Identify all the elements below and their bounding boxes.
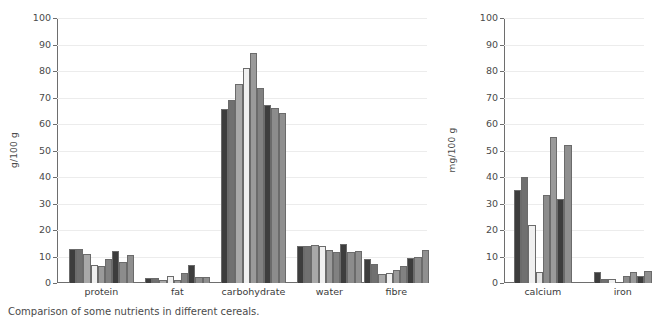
y-axis-tick	[500, 45, 504, 46]
y-axis-tick	[53, 151, 57, 152]
bar	[152, 278, 159, 283]
bar	[340, 244, 347, 283]
bar-group-fat	[145, 18, 210, 283]
x-axis-group-label: fibre	[346, 286, 446, 297]
bar	[127, 255, 134, 283]
bar	[521, 177, 528, 283]
bar	[228, 100, 235, 283]
y-axis-tick	[53, 98, 57, 99]
bar	[304, 246, 311, 283]
y-axis-tick-label: 60	[17, 119, 51, 129]
y-axis-tick	[53, 257, 57, 258]
y-axis-tick	[500, 71, 504, 72]
bar	[98, 266, 105, 283]
y-axis-tick-label: 50	[464, 146, 498, 156]
y-axis-tick	[53, 283, 57, 284]
y-axis-tick	[53, 177, 57, 178]
bar	[112, 251, 119, 283]
y-axis-tick-label: 80	[464, 66, 498, 76]
bar-group-fibre	[364, 18, 429, 283]
bar	[188, 265, 195, 283]
y-axis-tick-label: 100	[17, 13, 51, 23]
bar	[145, 278, 152, 283]
bar	[623, 276, 630, 283]
bar	[644, 271, 651, 283]
y-axis-tick-label: 70	[464, 93, 498, 103]
bar	[76, 249, 83, 283]
y-axis-tick-label: 50	[17, 146, 51, 156]
y-axis-tick-label: 0	[17, 278, 51, 288]
bar	[378, 274, 385, 283]
y-axis-tick-label: 100	[464, 13, 498, 23]
plot-area-left: 0102030405060708090100	[57, 18, 427, 283]
bar-group-calcium	[514, 18, 572, 283]
y-axis-tick-label: 30	[17, 199, 51, 209]
y-axis-tick-label: 40	[464, 172, 498, 182]
bar	[371, 264, 378, 283]
bar-group-carbohydrate	[221, 18, 286, 283]
chart-panel-milligrams: mg/100 g 0102030405060708090100 calciumi…	[440, 0, 659, 300]
bar	[347, 252, 354, 283]
bar	[69, 249, 76, 283]
y-axis-tick-label: 30	[464, 199, 498, 209]
bar	[264, 105, 271, 283]
bar	[414, 257, 421, 284]
y-axis-tick	[500, 18, 504, 19]
bar	[326, 250, 333, 283]
bar	[257, 88, 264, 283]
y-axis-tick-label: 10	[17, 252, 51, 262]
y-axis-tick	[500, 177, 504, 178]
y-axis-tick-label: 20	[464, 225, 498, 235]
bar	[167, 276, 174, 283]
y-axis-tick	[53, 71, 57, 72]
bar	[630, 272, 637, 283]
bar	[159, 280, 166, 283]
bar	[386, 273, 393, 283]
y-axis-tick	[500, 151, 504, 152]
bar	[528, 225, 535, 283]
bar	[550, 137, 557, 283]
bar	[221, 109, 228, 283]
bar	[400, 266, 407, 283]
bar	[297, 246, 304, 283]
y-axis-tick-label: 20	[17, 225, 51, 235]
bar	[250, 53, 257, 283]
bar	[564, 145, 571, 283]
bar	[616, 282, 623, 283]
figure-caption: Comparison of some nutrients in differen…	[8, 306, 260, 317]
bar	[407, 258, 414, 283]
y-axis-tick	[500, 230, 504, 231]
nutrient-comparison-figure: g/100 g 0102030405060708090100 proteinfa…	[0, 0, 659, 328]
y-axis-tick-label: 10	[464, 252, 498, 262]
bar	[364, 259, 371, 283]
bar	[393, 270, 400, 283]
bar	[514, 190, 521, 283]
y-axis-tick	[500, 98, 504, 99]
chart-panel-grams: g/100 g 0102030405060708090100 proteinfa…	[0, 0, 440, 300]
bar	[105, 259, 112, 283]
bar	[243, 68, 250, 283]
bar	[355, 251, 362, 283]
bar	[311, 245, 318, 283]
y-axis-tick	[500, 257, 504, 258]
y-axis-title-right: mg/100 g	[447, 128, 457, 173]
bar	[181, 273, 188, 283]
y-axis-tick	[53, 230, 57, 231]
y-axis-tick	[53, 204, 57, 205]
plot-area-right: 0102030405060708090100	[504, 18, 644, 283]
y-axis-tick-label: 90	[17, 40, 51, 50]
y-axis-tick-label: 40	[17, 172, 51, 182]
bar	[536, 272, 543, 283]
y-axis-tick-label: 90	[464, 40, 498, 50]
y-axis-tick-label: 70	[17, 93, 51, 103]
y-axis-tick	[53, 18, 57, 19]
y-axis-tick	[53, 124, 57, 125]
y-axis-tick	[500, 283, 504, 284]
bar	[543, 195, 550, 283]
bar-group-water	[297, 18, 362, 283]
bar	[557, 199, 564, 283]
bar	[91, 265, 98, 283]
bar-group-iron	[594, 18, 652, 283]
bar	[422, 250, 429, 283]
y-axis-tick	[500, 204, 504, 205]
